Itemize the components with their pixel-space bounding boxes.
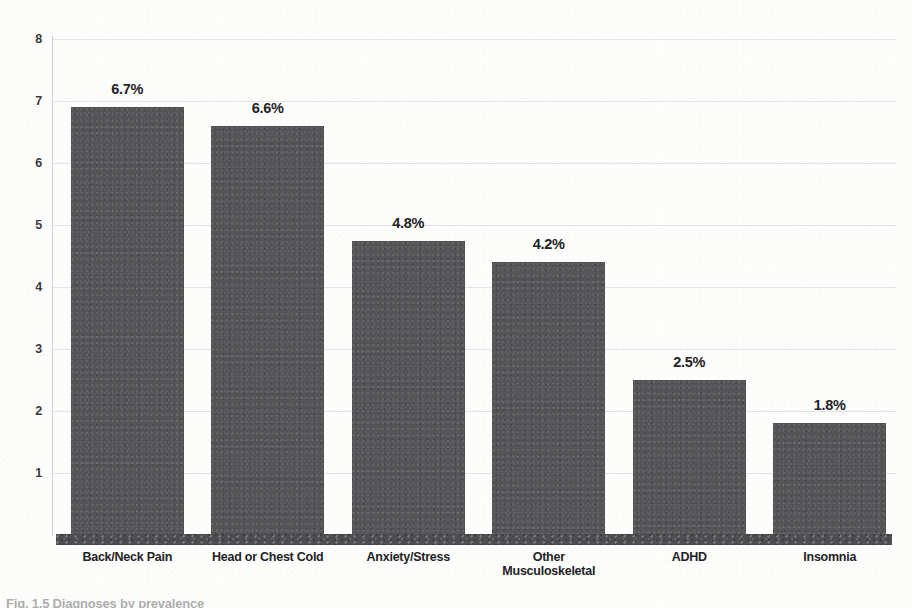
bar-data-label-5: 1.8% (773, 397, 886, 413)
y-axis-tick-5: 5 (18, 218, 42, 232)
y-axis-tick-1: 1 (18, 466, 42, 480)
x-axis-label-4-line-0: ADHD (672, 550, 707, 564)
y-axis-tick-3: 3 (18, 342, 42, 356)
x-axis-label-4: ADHD (619, 551, 760, 565)
x-axis-baseline (56, 534, 892, 545)
bar-data-label-3: 4.2% (492, 236, 605, 252)
bar-4 (633, 380, 746, 535)
x-axis-label-2: Anxiety/Stress (338, 551, 479, 565)
x-axis-label-3: OtherMusculoskeletal (478, 551, 619, 578)
bar-3 (492, 262, 605, 535)
gridline-8 (53, 39, 896, 40)
bar-data-label-4: 2.5% (633, 354, 746, 370)
figure-container: 87654321 6.7%6.6%4.8%4.2%2.5%1.8% Back/N… (0, 0, 912, 608)
bar-5 (773, 423, 886, 535)
y-axis-tick-2: 2 (18, 404, 42, 418)
bar-data-label-2: 4.8% (352, 215, 465, 231)
bar-data-label-0: 6.7% (71, 81, 184, 97)
x-axis-label-2-line-0: Anxiety/Stress (367, 550, 450, 564)
plot-area (53, 34, 896, 535)
bar-0 (71, 107, 184, 535)
bar-data-label-1: 6.6% (211, 100, 324, 116)
y-axis-tick-8: 8 (18, 32, 42, 46)
y-axis-tick-6: 6 (18, 156, 42, 170)
x-axis-label-0-line-0: Back/Neck Pain (82, 550, 172, 564)
x-axis-label-5: Insomnia (759, 551, 900, 565)
x-axis-label-1: Head or Chest Cold (197, 551, 338, 565)
bar-1 (211, 126, 324, 535)
x-axis-label-5-line-0: Insomnia (803, 550, 856, 564)
gridline-7 (53, 101, 896, 102)
bar-2 (352, 241, 465, 536)
y-axis-tick-7: 7 (18, 94, 42, 108)
x-axis-label-3-line-1: Musculoskeletal (478, 565, 619, 579)
x-axis-label-1-line-0: Head or Chest Cold (212, 550, 324, 564)
x-axis-label-0: Back/Neck Pain (57, 551, 198, 565)
figure-caption: Fig. 1.5 Diagnoses by prevalence (6, 596, 426, 608)
x-axis-label-3-line-0: Other (533, 550, 565, 564)
y-axis-tick-4: 4 (18, 280, 42, 294)
